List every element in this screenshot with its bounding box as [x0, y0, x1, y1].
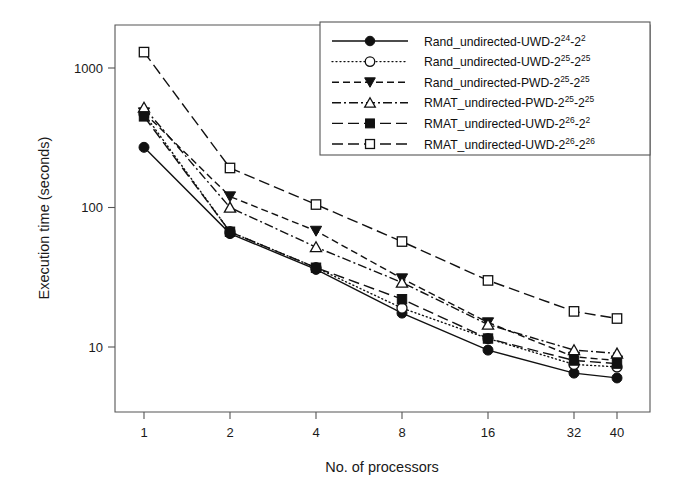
data-point-filled-circle — [139, 142, 149, 152]
data-point-open-square — [483, 276, 492, 285]
y-tick-label: 1000 — [74, 61, 103, 76]
data-point-open-square — [139, 47, 148, 56]
data-point-filled-circle — [365, 36, 375, 46]
data-point-filled-square — [612, 359, 621, 368]
data-point-filled-square — [139, 112, 148, 121]
data-point-filled-square — [311, 263, 320, 272]
data-point-open-square — [225, 163, 234, 172]
data-point-open-square — [366, 140, 375, 149]
chart-figure: 101001000 1248163240 Execution time (sec… — [0, 0, 685, 495]
data-point-open-square — [569, 307, 578, 316]
y-axis-title: Execution time (seconds) — [36, 137, 52, 300]
data-point-filled-circle — [483, 345, 493, 355]
data-point-open-circle — [365, 57, 375, 67]
x-tick-label: 16 — [481, 425, 495, 440]
y-tick-label: 100 — [81, 200, 103, 215]
data-point-filled-square — [225, 227, 234, 236]
x-tick-label: 40 — [610, 425, 624, 440]
data-point-open-square — [612, 314, 621, 323]
data-point-filled-square — [483, 334, 492, 343]
data-point-filled-square — [569, 356, 578, 365]
data-point-filled-square — [366, 119, 375, 128]
data-point-filled-circle — [612, 373, 622, 383]
x-tick-label: 2 — [226, 425, 233, 440]
data-point-open-circle — [397, 303, 407, 313]
y-tick-label: 10 — [89, 340, 103, 355]
x-tick-label: 1 — [140, 425, 147, 440]
data-point-open-square — [397, 237, 406, 246]
legend: Rand_undirected-UWD-224-22Rand_undirecte… — [320, 22, 650, 155]
x-tick-label: 8 — [398, 425, 405, 440]
data-point-filled-square — [397, 295, 406, 304]
x-tick-label: 32 — [567, 425, 581, 440]
execution-time-line-chart: 101001000 1248163240 Execution time (sec… — [0, 0, 685, 495]
data-point-open-square — [311, 200, 320, 209]
x-axis-title: No. of processors — [325, 459, 439, 475]
x-tick-label: 4 — [312, 425, 319, 440]
